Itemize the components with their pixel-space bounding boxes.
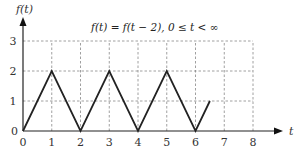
y-axis-label: f(t) xyxy=(15,3,33,16)
x-tick-label: 1 xyxy=(48,136,55,149)
x-tick-label: 0 xyxy=(20,136,27,149)
x-tick-label: 7 xyxy=(221,136,228,149)
axes xyxy=(20,17,284,135)
y-tick-label: 2 xyxy=(10,65,17,78)
x-tick-label: 2 xyxy=(77,136,84,149)
triangle-wave-chart: 012345678123 f(t) t f(t) = f(t − 2), 0 ≤… xyxy=(0,0,296,154)
x-axis-arrow-icon xyxy=(274,128,283,135)
x-axis-label: t xyxy=(289,125,294,138)
y-tick-label: 3 xyxy=(10,35,17,48)
x-tick-label: 6 xyxy=(192,136,199,149)
x-tick-label: 3 xyxy=(106,136,113,149)
x-tick-label: 8 xyxy=(250,136,257,149)
grid-lines xyxy=(23,41,253,131)
y-tick-label: 1 xyxy=(10,95,17,108)
x-tick-label: 4 xyxy=(135,136,142,149)
origin-label: 0 xyxy=(11,125,18,138)
x-tick-label: 5 xyxy=(163,136,170,149)
tick-labels: 012345678123 xyxy=(10,35,257,149)
chart-title: f(t) = f(t − 2), 0 ≤ t < ∞ xyxy=(90,21,219,33)
y-axis-arrow-icon xyxy=(20,17,27,26)
